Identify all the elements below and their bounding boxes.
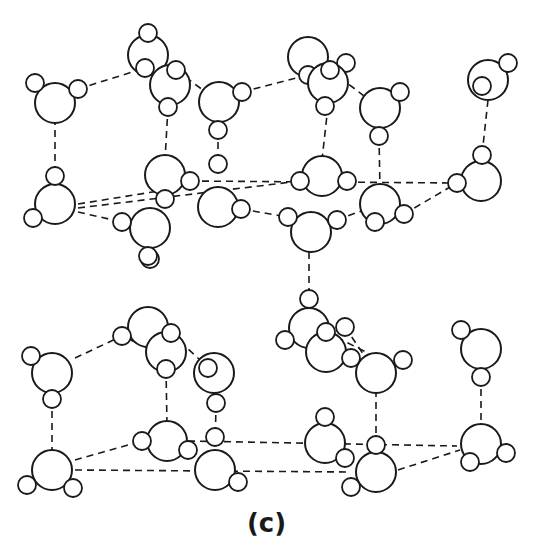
water-molecules xyxy=(18,24,517,497)
water-molecule xyxy=(22,347,72,408)
water-molecule xyxy=(448,146,501,201)
hydrogen-atom xyxy=(233,83,251,101)
hydrogen-atom xyxy=(279,208,297,226)
hydrogen-atom xyxy=(366,213,384,231)
water-molecule xyxy=(195,428,247,491)
hydrogen-bond xyxy=(75,441,142,460)
hydrogen-atom xyxy=(448,174,466,192)
hydrogen-atom xyxy=(157,360,175,378)
hydrogen-atom xyxy=(46,167,64,185)
hydrogen-atom xyxy=(199,359,217,377)
water-molecule xyxy=(305,408,354,467)
hydrogen-atom xyxy=(394,351,412,369)
hydrogen-atom xyxy=(136,59,154,77)
oxygen-atom xyxy=(145,155,185,195)
hydrogen-bond xyxy=(398,450,460,470)
water-molecule xyxy=(145,155,199,208)
water-molecule xyxy=(26,74,87,123)
hydrogen-atom xyxy=(229,473,247,491)
water-molecule xyxy=(360,184,413,231)
oxygen-atom xyxy=(356,353,396,393)
water-molecule xyxy=(468,54,517,100)
hydrogen-atom xyxy=(316,408,334,426)
water-molecule xyxy=(18,450,82,497)
hydrogen-bond xyxy=(78,190,165,204)
oxygen-atom xyxy=(356,452,396,492)
hydrogen-atom xyxy=(139,247,157,265)
hydrogen-bond xyxy=(242,75,308,92)
hydrogen-atom xyxy=(316,97,334,115)
hydrogen-atom xyxy=(69,80,87,98)
hydrogen-atom xyxy=(113,213,131,231)
hydrogen-atom xyxy=(321,61,339,79)
hydrogen-atom xyxy=(472,368,490,386)
hydrogen-atom xyxy=(497,444,515,462)
water-molecule xyxy=(279,208,346,252)
hydrogen-atom xyxy=(43,390,61,408)
hydrogen-atom xyxy=(473,146,491,164)
ice-lattice-diagram xyxy=(0,0,533,554)
hydrogen-atom xyxy=(342,349,360,367)
hydrogen-atom xyxy=(499,54,517,72)
hydrogen-atom xyxy=(156,190,174,208)
water-molecule xyxy=(461,424,515,471)
hydrogen-atom xyxy=(167,61,185,79)
hydrogen-atom xyxy=(139,24,157,42)
water-molecule xyxy=(360,83,409,145)
hydrogen-atom xyxy=(461,453,479,471)
hydrogen-atom xyxy=(162,324,180,342)
hydrogen-atom xyxy=(209,121,227,139)
hydrogen-atom xyxy=(24,209,42,227)
hydrogen-atom xyxy=(328,211,346,229)
hydrogen-atom xyxy=(209,155,227,173)
water-molecule xyxy=(24,167,75,227)
hydrogen-atom xyxy=(370,127,388,145)
hydrogen-atom xyxy=(300,290,318,308)
hydrogen-atom xyxy=(336,318,354,336)
hydrogen-atom xyxy=(367,436,385,454)
water-molecule xyxy=(342,349,412,393)
hydrogen-atom xyxy=(207,394,225,412)
hydrogen-atom xyxy=(276,331,294,349)
hydrogen-atom xyxy=(64,479,82,497)
water-molecule xyxy=(133,421,197,461)
hydrogen-atom xyxy=(473,77,491,95)
hydrogen-atom xyxy=(179,441,197,459)
hydrogen-atom xyxy=(291,172,309,190)
hydrogen-atom xyxy=(338,172,356,190)
figure-caption: (c) xyxy=(0,508,533,538)
hydrogen-atom xyxy=(133,432,151,450)
hydrogen-atom xyxy=(391,83,409,101)
hydrogen-atom xyxy=(317,323,335,341)
water-molecule xyxy=(291,156,356,196)
hydrogen-atom xyxy=(336,449,354,467)
water-molecule xyxy=(199,82,251,139)
hydrogen-atom xyxy=(159,98,177,116)
hydrogen-atom xyxy=(22,347,40,365)
hydrogen-atom xyxy=(206,428,224,446)
hydrogen-atom xyxy=(395,205,413,223)
oxygen-atom xyxy=(461,161,501,201)
hydrogen-atom xyxy=(342,478,360,496)
water-molecule xyxy=(194,353,234,412)
water-molecule xyxy=(452,321,501,386)
hydrogen-atom xyxy=(452,321,470,339)
hydrogen-bonds xyxy=(52,68,488,472)
oxygen-atom xyxy=(130,208,170,248)
hydrogen-atom xyxy=(113,327,131,345)
hydrogen-atom xyxy=(232,200,250,218)
hydrogen-atom xyxy=(26,74,44,92)
hydrogen-atom xyxy=(18,476,36,494)
hydrogen-atom xyxy=(181,172,199,190)
water-molecule xyxy=(308,61,348,115)
water-molecule xyxy=(198,155,250,227)
